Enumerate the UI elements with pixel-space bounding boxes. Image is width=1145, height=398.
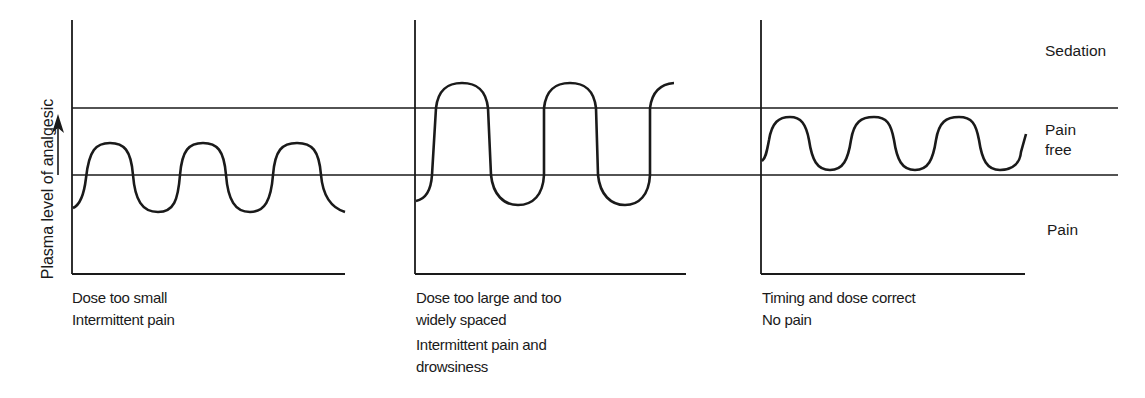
caption-line: Timing and dose correct [762, 287, 915, 309]
zone-label-pain-free: Pain free [1045, 120, 1076, 160]
curve-dose-too-large [416, 83, 674, 205]
caption-line: Dose too small [72, 287, 174, 309]
caption-panel-3: Timing and dose correct No pain [762, 287, 915, 331]
panel-1-axes [72, 20, 345, 274]
caption-line: Intermittent pain and [416, 334, 561, 356]
analgesic-diagram [0, 0, 1145, 398]
caption-line: widely spaced [416, 309, 561, 331]
zone-label-pain: Pain [1047, 220, 1078, 240]
zone-label-pain-free-line1: Pain [1045, 120, 1076, 140]
caption-line: Dose too large and too [416, 287, 561, 309]
y-axis-label: Plasma level of analgesic [39, 79, 57, 299]
caption-line: No pain [762, 309, 915, 331]
zone-label-pain-free-line2: free [1045, 140, 1076, 160]
panel-2-axes [415, 20, 686, 274]
caption-panel-1: Dose too small Intermittent pain [72, 287, 174, 331]
curve-timing-correct [762, 117, 1026, 170]
panel-3-axes [761, 20, 1025, 274]
curve-dose-too-small [73, 143, 345, 212]
caption-line: Intermittent pain [72, 309, 174, 331]
caption-panel-2: Dose too large and too widely spaced Int… [416, 287, 561, 378]
caption-line: drowsiness [416, 356, 561, 378]
zone-label-sedation: Sedation [1045, 41, 1106, 61]
